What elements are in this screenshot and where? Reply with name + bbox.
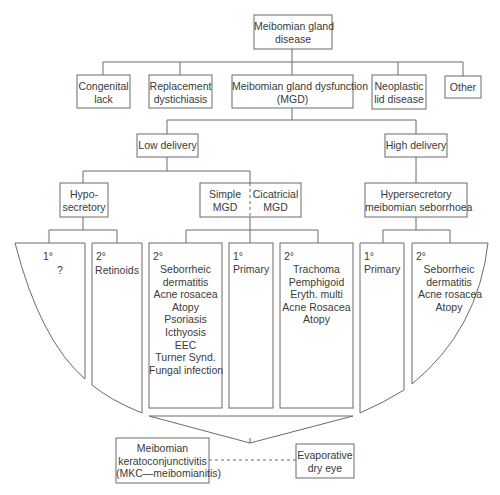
simple-secondary-grade: 2° bbox=[153, 250, 163, 263]
hyper-secondary-items: Seborrheic dermatitis Acne rosacea Atopy bbox=[418, 263, 480, 313]
hyper-primary-item: Primary bbox=[364, 263, 400, 276]
hypersecretory-label: Hypersecretorymeibomian seborrhoea bbox=[365, 188, 467, 213]
high-delivery-label: High delivery bbox=[385, 139, 447, 152]
diagram-connectors bbox=[0, 0, 500, 495]
mgd-label: Meibomian gland dysfunction(MGD) bbox=[232, 80, 353, 105]
cicatricial-secondary-grade: 2° bbox=[284, 250, 294, 263]
low-delivery-label: Low delivery bbox=[137, 139, 198, 152]
root-label: Meibomian glanddisease bbox=[254, 20, 332, 45]
simple-mgd-label: SimpleMGD bbox=[200, 188, 250, 213]
neoplastic-label: Neoplasticlid disease bbox=[372, 80, 426, 105]
replacement-label: Replacementdystichiasis bbox=[149, 80, 212, 105]
simple-primary-grade: 1° bbox=[233, 250, 243, 263]
hyper-secondary-grade: 2° bbox=[416, 250, 426, 263]
dry-eye-label: Evaporative dry eye bbox=[296, 449, 354, 474]
hypo-primary-grade: 1° bbox=[38, 250, 58, 263]
cicatricial-mgd-label: CicatricialMGD bbox=[250, 188, 301, 213]
simple-secondary-items: Seborrheic dermatitis Acne rosacea Atopy… bbox=[149, 263, 222, 376]
other-label: Other bbox=[445, 81, 481, 94]
hypo-secondary-grade: 2° bbox=[96, 250, 106, 263]
cicatricial-secondary-items: Trachoma Pemphigoid Eryth. multi Acne Ro… bbox=[280, 263, 353, 326]
hyper-primary-grade: 1° bbox=[364, 250, 374, 263]
mkc-label: Meibomian keratoconjunctivitis (MKC—meib… bbox=[116, 442, 209, 480]
simple-primary-item: Primary bbox=[233, 263, 269, 276]
hyposecretory-label: Hypo-secretory bbox=[60, 188, 108, 213]
congenital-label: Congenitallack bbox=[77, 80, 130, 105]
hypo-secondary-item: Retinoids bbox=[92, 264, 142, 277]
hypo-primary-item: ? bbox=[50, 264, 70, 277]
